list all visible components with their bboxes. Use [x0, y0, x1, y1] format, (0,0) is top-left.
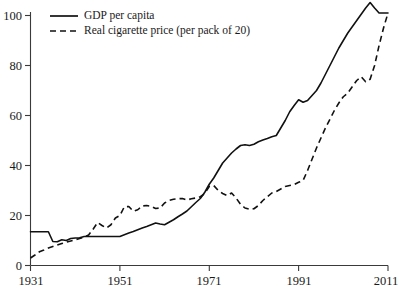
legend: GDP per capita Real cigarette price (per… [50, 9, 250, 37]
y-tick-label-0: 0 [16, 259, 22, 273]
x-tick-label-1951: 1951 [108, 274, 133, 288]
x-tick-label-1991: 1991 [287, 274, 312, 288]
y-axis: 100 80 60 40 20 0 [3, 9, 30, 273]
y-tick-label-100: 100 [3, 9, 22, 23]
x-tick-label-2011: 2011 [374, 274, 399, 288]
y-tick-label-80: 80 [10, 59, 23, 73]
series-group [31, 3, 389, 259]
y-tick-label-40: 40 [10, 159, 23, 173]
y-tick-label-20: 20 [10, 209, 23, 223]
series-line-real-cigarette-price [31, 13, 389, 258]
x-tick-label-1931: 1931 [19, 274, 44, 288]
x-axis: 1931 1951 1971 1991 2011 [19, 266, 399, 289]
chart-container: 100 80 60 40 20 0 1931 1951 1971 1991 20… [0, 0, 403, 292]
legend-label-real-cigarette-price: Real cigarette price (per pack of 20) [84, 24, 250, 37]
y-tick-group [25, 16, 31, 266]
x-tick-group [31, 266, 389, 272]
x-tick-label-1971: 1971 [197, 274, 222, 288]
line-chart: 100 80 60 40 20 0 1931 1951 1971 1991 20… [0, 0, 403, 292]
y-tick-label-60: 60 [10, 109, 23, 123]
legend-label-gdp-per-capita: GDP per capita [84, 9, 154, 22]
series-line-gdp-per-capita [31, 3, 389, 242]
